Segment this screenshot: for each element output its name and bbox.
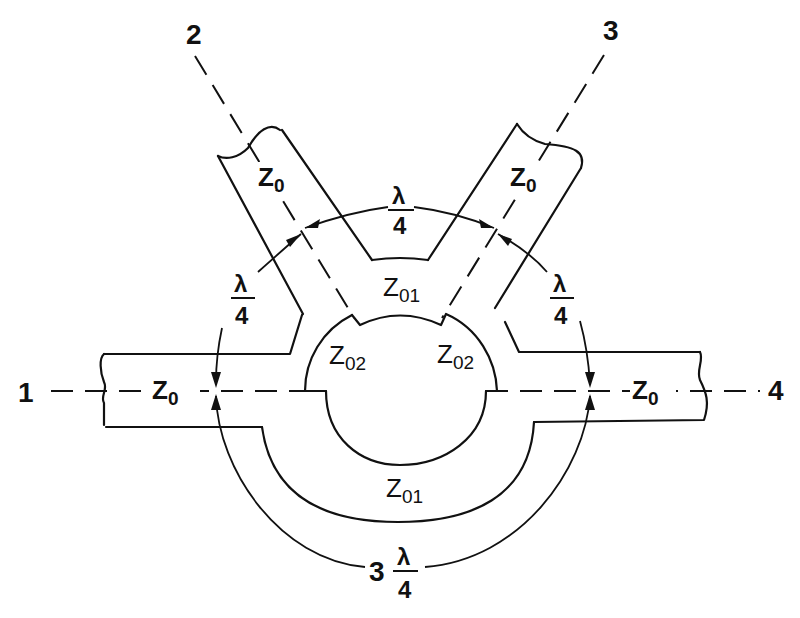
port-4-label: 4 xyxy=(768,375,784,406)
ring-hybrid-diagram: 1 2 3 4 Z0 Z0 Z0 Z0 Z01 Z01 Z02 Z02 λ 4 … xyxy=(0,0,800,618)
ring-outer-bottom xyxy=(262,422,534,522)
z0-label-port-2: Z0 xyxy=(256,162,300,196)
lambda-quarter-left-label: λ 4 xyxy=(231,270,255,329)
svg-text:4: 4 xyxy=(398,576,412,603)
lambda-three-quarter-dimension xyxy=(211,394,595,567)
svg-text:λ: λ xyxy=(553,270,566,297)
svg-text:λ: λ xyxy=(234,270,247,297)
port-2-label: 2 xyxy=(186,19,202,50)
svg-text:4: 4 xyxy=(554,302,568,329)
z01-label-bottom: Z01 xyxy=(386,473,423,507)
svg-text:3: 3 xyxy=(369,556,385,587)
lambda-three-quarter-label: 3 λ 4 xyxy=(369,543,418,603)
port-1-label: 1 xyxy=(18,377,34,408)
lambda-quarter-top-label: λ 4 xyxy=(388,182,414,239)
port-4-line xyxy=(505,322,707,422)
ring-top-edge xyxy=(372,258,428,260)
lambda-quarter-right-label: λ 4 xyxy=(550,270,574,329)
lambda-quarter-left-dimension xyxy=(211,234,301,388)
z0-label-port-1: Z0 xyxy=(150,375,200,409)
z01-label-top: Z01 xyxy=(383,272,420,306)
z0-label-port-4: Z0 xyxy=(630,375,676,409)
z0-label-port-3: Z0 xyxy=(508,162,552,196)
inner-ring xyxy=(305,314,497,465)
svg-text:4: 4 xyxy=(393,212,407,239)
svg-text:λ: λ xyxy=(392,182,405,209)
svg-text:λ: λ xyxy=(397,543,410,570)
svg-text:4: 4 xyxy=(235,302,249,329)
port-3-label: 3 xyxy=(603,15,619,46)
z02-label-left: Z02 xyxy=(329,340,366,374)
lambda-quarter-right-dimension xyxy=(498,234,595,388)
z02-label-right: Z02 xyxy=(437,339,474,373)
port-1-line xyxy=(101,315,302,427)
